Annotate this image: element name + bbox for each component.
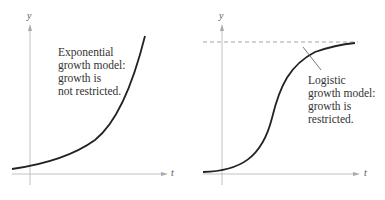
left-y-arrow-icon (28, 24, 32, 31)
left-t-axis-label: t (171, 167, 174, 178)
left-y-axis-label: y (27, 10, 31, 21)
left-t-arrow-icon (161, 172, 168, 176)
logistic-annotation: Logistic growth model: growth is restric… (308, 74, 375, 126)
right-t-axis-label: t (364, 167, 367, 178)
right-y-axis-label: y (219, 10, 223, 21)
right-t-arrow-icon (353, 172, 360, 176)
exponential-annotation: Exponential growth model: growth is not … (58, 46, 125, 98)
right-y-arrow-icon (220, 24, 224, 31)
